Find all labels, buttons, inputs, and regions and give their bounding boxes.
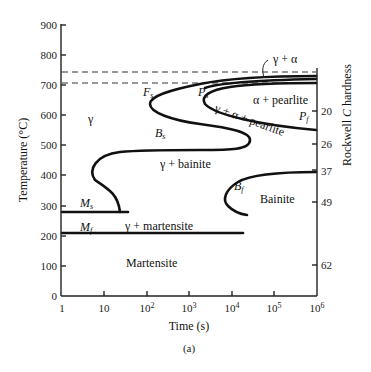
y2-tick-62: 62 <box>321 259 332 271</box>
label-bs: Bs <box>155 126 165 141</box>
figure-caption: (a) <box>183 342 196 355</box>
x-tick-1000000: 106 <box>310 301 325 314</box>
region-alpha-pearlite: α + pearlite <box>253 93 308 107</box>
y-tick-400: 400 <box>41 169 58 181</box>
y2-tick-20: 20 <box>321 105 333 117</box>
label-mf: Mf <box>79 220 94 235</box>
region-gamma-martensite: γ + martensite <box>124 219 193 233</box>
x-tick-100: 102 <box>140 301 155 314</box>
y2-tick-37: 37 <box>321 165 333 177</box>
x-axis-label: Time (s) <box>169 319 210 333</box>
x-tick-1000: 103 <box>182 301 197 314</box>
y-tick-800: 800 <box>41 49 58 61</box>
x-tick-10: 10 <box>99 302 111 314</box>
y-tick-100: 100 <box>41 260 58 272</box>
y-tick-200: 200 <box>41 230 58 242</box>
region-gamma-bainite: γ + bainite <box>159 157 211 171</box>
y-axis-label: Temperature (°C) <box>16 118 30 202</box>
region-gamma-alpha: γ + α <box>272 52 298 66</box>
y-ticks <box>61 25 66 266</box>
x-tick-1: 1 <box>59 302 65 314</box>
region-bainite: Bainite <box>260 192 295 206</box>
x-ticks <box>104 291 274 296</box>
region-martensite: Martensite <box>126 256 177 270</box>
y2-tick-26: 26 <box>321 138 333 150</box>
gamma-alpha-leader <box>263 60 268 78</box>
y-tick-500: 500 <box>41 139 58 151</box>
y-tick-700: 700 <box>41 79 58 91</box>
x-tick-100000: 105 <box>267 301 282 314</box>
label-fs: Fs <box>142 85 153 100</box>
y2-tick-49: 49 <box>321 196 333 208</box>
x-tick-10000: 104 <box>225 301 240 314</box>
y-tick-600: 600 <box>41 109 58 121</box>
y2-axis-label: Rockwell C hardness <box>340 64 354 166</box>
ttt-diagram: 900 800 700 600 500 400 300 200 100 0 1 … <box>0 0 371 372</box>
region-gamma: γ <box>87 112 94 126</box>
label-pf: Pf <box>298 109 310 124</box>
y-tick-300: 300 <box>41 200 58 212</box>
y2-ticks <box>312 111 317 265</box>
label-ms: Ms <box>79 196 93 211</box>
label-bf: Bf <box>234 179 245 194</box>
y-tick-900: 900 <box>41 19 58 31</box>
y-tick-0: 0 <box>52 290 58 302</box>
